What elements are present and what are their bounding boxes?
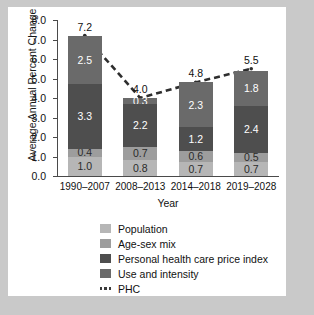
legend-label: Use and intensity: [118, 268, 199, 280]
bar-segment-value: 0.6: [188, 151, 203, 162]
bar-segment-value: 0.3: [133, 98, 148, 104]
bar-segment-value: 0.7: [244, 164, 259, 175]
legend-color-swatch: [100, 269, 111, 278]
bar-segment-value: 2.4: [244, 124, 259, 135]
bar-segment-value: 3.3: [77, 111, 92, 122]
y-axis-tick-label: 3.0: [31, 112, 46, 123]
bar-segment-value: 0.7: [133, 148, 148, 159]
bar-segment: 2.4: [234, 106, 268, 153]
y-axis-tick-label: 5.0: [31, 73, 46, 84]
legend-label: PHC: [118, 283, 140, 295]
bar-segment-value: 2.2: [133, 120, 148, 131]
bar-segment: 0.7: [234, 162, 268, 176]
y-axis-tick-mark: [53, 98, 58, 99]
y-axis-tick-label: 0.0: [31, 171, 46, 182]
bar-segment: 0.6: [179, 151, 213, 163]
bar-segment-value: 0.4: [77, 149, 92, 157]
legend-item[interactable]: Population: [100, 221, 286, 236]
bar-segment-value: 1.8: [244, 83, 259, 94]
bar-segment-value: 1.0: [77, 161, 92, 172]
y-axis-tick-label: 4.0: [31, 93, 46, 104]
y-axis-tick-mark: [53, 79, 58, 80]
bar-stack: 1.00.43.32.57.2: [68, 20, 102, 176]
bar-segment-value: 2.5: [77, 55, 92, 66]
y-axis-tick-mark: [53, 157, 58, 158]
chart-card: Average Annual Percent Change 0.01.02.03…: [8, 7, 286, 296]
bar-total-label: 4.0: [110, 83, 170, 95]
bar-segment-value: 1.2: [188, 134, 203, 145]
y-axis-tick-label: 8.0: [31, 15, 46, 26]
bar-segment: 0.7: [123, 147, 157, 161]
y-axis-tick-mark: [53, 137, 58, 138]
legend-label: Population: [118, 223, 168, 235]
bar-segment: 3.3: [68, 84, 102, 148]
bar-stack: 0.70.61.22.34.8: [179, 20, 213, 176]
y-axis-tick-label: 6.0: [31, 54, 46, 65]
bar-segment: 0.7: [179, 162, 213, 176]
chart-legend: PopulationAge-sex mixPersonal health car…: [100, 221, 286, 296]
bar-segment-value: 2.3: [188, 100, 203, 111]
bar-segment: 0.3: [123, 98, 157, 104]
bar-total-label: 5.5: [221, 54, 281, 66]
legend-item[interactable]: Use and intensity: [100, 266, 286, 281]
bar-stack: 0.70.52.41.85.5: [234, 20, 268, 176]
y-axis-tick-labels: 0.01.02.03.04.05.06.07.08.0: [16, 20, 46, 176]
x-axis-line: [57, 176, 279, 177]
bar-stack: 0.80.72.20.34.0: [123, 20, 157, 176]
bar-segment: 1.2: [179, 127, 213, 150]
legend-label: Age-sex mix: [118, 238, 176, 250]
x-axis-tick-label: 2019–2028: [218, 181, 284, 192]
bar-total-label: 7.2: [55, 21, 115, 33]
bar-segment: 2.3: [179, 82, 213, 127]
bar-segment: 1.0: [68, 157, 102, 177]
bar-segment: 2.2: [123, 104, 157, 147]
y-axis-tick-mark: [53, 118, 58, 119]
legend-color-swatch: [100, 224, 111, 233]
legend-item[interactable]: PHC: [100, 281, 286, 296]
bar-segment: 1.8: [234, 71, 268, 106]
bar-segment-value: 0.5: [244, 153, 259, 163]
bar-segment: 2.5: [68, 36, 102, 85]
legend-color-swatch: [100, 239, 111, 248]
legend-label: Personal health care price index: [118, 253, 268, 265]
legend-item[interactable]: Age-sex mix: [100, 236, 286, 251]
y-axis-tick-mark: [53, 59, 58, 60]
bar-total-label: 4.8: [166, 67, 226, 79]
bar-segment: 0.8: [123, 160, 157, 176]
y-axis-tick-label: 7.0: [31, 34, 46, 45]
bar-segment-value: 0.8: [133, 163, 148, 174]
y-axis-tick-mark: [53, 40, 58, 41]
legend-dashed-line-icon: [100, 284, 111, 293]
legend-item[interactable]: Personal health care price index: [100, 251, 286, 266]
bar-segment-value: 0.7: [188, 164, 203, 175]
y-axis-tick-label: 2.0: [31, 132, 46, 143]
y-axis-tick-label: 1.0: [31, 151, 46, 162]
chart-plot-area: Average Annual Percent Change 0.01.02.03…: [8, 7, 286, 212]
bar-segment: 0.5: [234, 153, 268, 163]
x-axis-title: Year: [57, 197, 279, 209]
legend-color-swatch: [100, 254, 111, 263]
bar-segment: 0.4: [68, 149, 102, 157]
